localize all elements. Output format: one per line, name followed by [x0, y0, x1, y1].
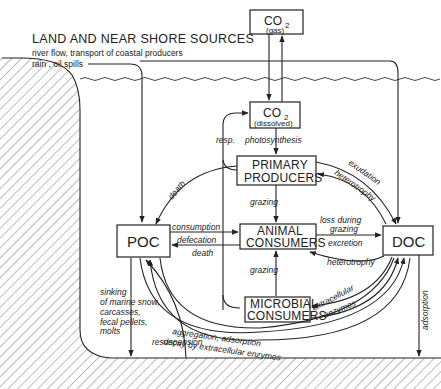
label-heterotrophy-ac: heterotrophy: [327, 257, 375, 267]
sources-line-2: rain , oil spills: [32, 59, 83, 69]
label-grazing-mc: grazing: [250, 265, 278, 275]
svg-text:(dissolved): (dissolved): [254, 119, 293, 128]
label-defecation: defecation: [177, 235, 216, 245]
svg-text:2: 2: [285, 21, 290, 30]
primary-producers-box: PRIMARY PRODUCERS: [237, 156, 322, 185]
doc-box: DOC: [383, 226, 433, 255]
label-sinking-3: carcasses,: [100, 307, 141, 317]
label-resuspension: resuspension: [152, 337, 203, 347]
label-grazing-pp: grazing: [250, 197, 278, 207]
svg-text:CONSUMERS: CONSUMERS: [246, 236, 326, 250]
sources-line-1: river flow, transport of coastal produce…: [32, 48, 183, 58]
label-excretion: excretion: [328, 238, 363, 248]
label-resp: resp.: [216, 135, 235, 145]
sea-surface-wave: [80, 78, 440, 81]
svg-text:PRODUCERS: PRODUCERS: [244, 171, 322, 185]
label-adsorption: adsorption: [420, 290, 430, 330]
svg-text:PRIMARY: PRIMARY: [252, 158, 308, 172]
co2-dissolved-box: CO 2 (dissolved): [250, 102, 300, 128]
animal-consumers-box: ANIMAL CONSUMERS: [240, 224, 326, 250]
svg-text:(gas): (gas): [266, 26, 285, 35]
label-grazing-loss: grazing: [330, 224, 358, 234]
label-death-ac: death: [192, 248, 214, 258]
label-death-pp: death: [166, 178, 188, 201]
title-land-sources: LAND AND NEAR SHORE SOURCES: [32, 32, 254, 46]
poc-box: POC: [117, 225, 170, 257]
label-sinking: sinking: [100, 287, 127, 297]
label-sinking-2: of marine snow,: [100, 297, 160, 307]
co2-gas-box: CO 2 (gas): [250, 10, 303, 35]
carbon-cycle-diagram: LAND AND NEAR SHORE SOURCES river flow, …: [0, 0, 441, 389]
label-sinking-5: molts: [100, 326, 121, 336]
label-consumption: consumption: [172, 222, 220, 232]
svg-text:DOC: DOC: [392, 233, 426, 250]
label-photosynthesis: photosynthesis: [244, 135, 302, 145]
svg-text:CO: CO: [263, 106, 281, 120]
svg-text:POC: POC: [127, 233, 160, 250]
